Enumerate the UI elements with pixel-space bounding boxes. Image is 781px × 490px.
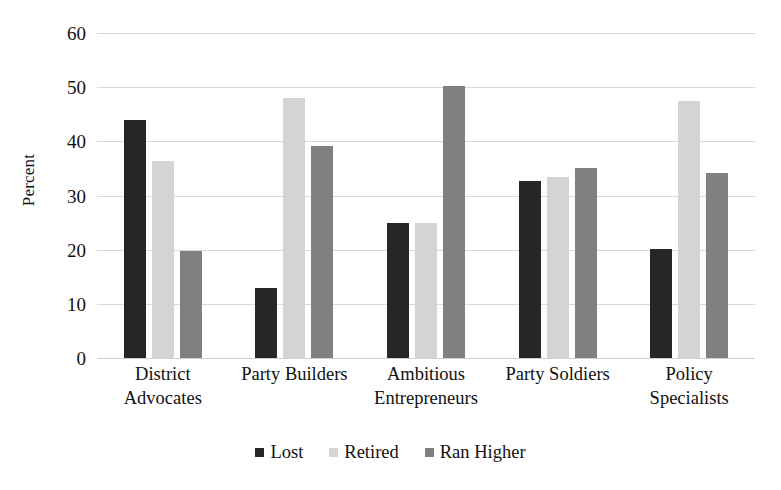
x-axis-label-line: Advocates xyxy=(79,386,247,410)
bar-group xyxy=(623,33,755,358)
bar xyxy=(124,120,146,358)
bar xyxy=(415,223,437,358)
bar xyxy=(547,177,569,358)
gridline xyxy=(97,358,755,359)
legend-swatch-icon xyxy=(255,448,264,457)
legend: LostRetiredRan Higher xyxy=(0,443,781,462)
plot-area xyxy=(97,33,755,358)
bar xyxy=(387,223,409,358)
bar-group xyxy=(360,33,492,358)
y-axis-tick-label: 10 xyxy=(46,294,86,313)
legend-item[interactable]: Retired xyxy=(329,443,398,462)
x-axis-label-line: Specialists xyxy=(605,386,773,410)
bar-group xyxy=(229,33,361,358)
bar xyxy=(283,98,305,358)
y-axis-tick-label: 20 xyxy=(46,240,86,259)
y-axis-tick-label: 60 xyxy=(46,24,86,43)
bar xyxy=(575,168,597,358)
bar xyxy=(519,181,541,358)
bar xyxy=(650,249,672,358)
y-axis-tick-label: 50 xyxy=(46,78,86,97)
bar xyxy=(180,251,202,358)
y-axis-tick-label: 30 xyxy=(46,186,86,205)
bar xyxy=(311,146,333,358)
legend-label: Retired xyxy=(344,443,398,462)
bar-group xyxy=(492,33,624,358)
y-axis-title: Percent xyxy=(14,0,44,360)
y-axis-tick-label: 40 xyxy=(46,132,86,151)
legend-item[interactable]: Lost xyxy=(255,443,303,462)
bar-chart: Percent 0102030405060 DistrictAdvocatesP… xyxy=(0,0,781,490)
bar xyxy=(152,161,174,358)
y-axis-title-text: Percent xyxy=(19,154,39,206)
bar-group xyxy=(97,33,229,358)
x-axis-label-line: Entrepreneurs xyxy=(342,386,510,410)
x-axis-category-labels: DistrictAdvocatesParty BuildersAmbitious… xyxy=(97,362,755,422)
x-axis-label-line: Policy xyxy=(605,362,773,386)
x-axis-category-label: PolicySpecialists xyxy=(605,362,773,411)
legend-item[interactable]: Ran Higher xyxy=(425,443,526,462)
legend-swatch-icon xyxy=(425,448,434,457)
legend-label: Ran Higher xyxy=(440,443,526,462)
bars-layer xyxy=(97,33,755,358)
bar xyxy=(678,101,700,358)
bar xyxy=(706,173,728,358)
legend-swatch-icon xyxy=(329,448,338,457)
bar xyxy=(443,86,465,358)
bar xyxy=(255,288,277,358)
legend-label: Lost xyxy=(270,443,303,462)
